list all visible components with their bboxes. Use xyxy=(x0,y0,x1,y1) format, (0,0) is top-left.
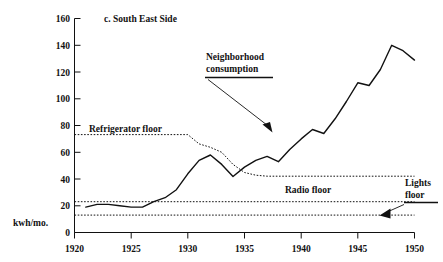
x-tick-label-1940: 1940 xyxy=(292,244,311,254)
x-tick-label-1950: 1950 xyxy=(405,244,424,254)
x-tick-label-1925: 1925 xyxy=(122,244,141,254)
annotation-radio-floor-label: Radio floor xyxy=(285,185,332,195)
annotation-lights-arrowhead xyxy=(380,209,391,219)
y-tick-label-120: 120 xyxy=(56,68,71,78)
annotation-neighborhood-arrowhead xyxy=(263,122,273,133)
chart-figure: 160 140 120 100 80 60 40 20 0 1920 1925 … xyxy=(0,0,443,262)
annotation-neighborhood-line2: consumption xyxy=(206,64,259,74)
y-tick-label-40: 40 xyxy=(61,175,71,185)
annotation-refrigerator-floor: Refrigerator floor xyxy=(89,124,163,134)
annotation-lights-floor: Lights floor xyxy=(380,178,439,219)
y-tick-label-160: 160 xyxy=(56,14,71,24)
annotation-radio-floor: Radio floor xyxy=(285,185,332,195)
floor-series-group xyxy=(75,135,415,216)
y-tick-label-20: 20 xyxy=(61,201,71,211)
x-tick-label-1945: 1945 xyxy=(348,244,367,254)
y-tick-label-80: 80 xyxy=(61,121,71,131)
y-tick-label-60: 60 xyxy=(61,148,71,158)
y-axis-unit-label: kwh/mo. xyxy=(13,218,48,228)
y-tick-label-0: 0 xyxy=(65,228,70,238)
y-tick-marks xyxy=(75,19,81,233)
annotation-neighborhood-consumption: Neighborhood consumption xyxy=(205,52,273,133)
x-tick-label-1920: 1920 xyxy=(65,244,84,254)
annotation-neighborhood-line1: Neighborhood xyxy=(206,52,265,62)
y-tick-labels: 160 140 120 100 80 60 40 20 0 xyxy=(56,14,71,238)
y-tick-label-100: 100 xyxy=(56,94,71,104)
page-title: c. South East Side xyxy=(104,14,177,24)
series-refrigerator-floor xyxy=(75,135,415,177)
x-tick-label-1935: 1935 xyxy=(235,244,254,254)
y-tick-label-140: 140 xyxy=(56,41,71,51)
x-tick-marks xyxy=(75,233,415,239)
annotation-lights-line2: floor xyxy=(405,190,425,200)
chart-canvas: 160 140 120 100 80 60 40 20 0 1920 1925 … xyxy=(0,0,443,262)
x-tick-label-1930: 1930 xyxy=(178,244,197,254)
annotation-neighborhood-leader xyxy=(208,80,270,128)
x-tick-labels: 1920 1925 1930 1935 1940 1945 1950 xyxy=(65,244,424,254)
annotation-lights-line1: Lights xyxy=(405,178,431,188)
annotation-refrigerator-floor-label: Refrigerator floor xyxy=(89,124,163,134)
